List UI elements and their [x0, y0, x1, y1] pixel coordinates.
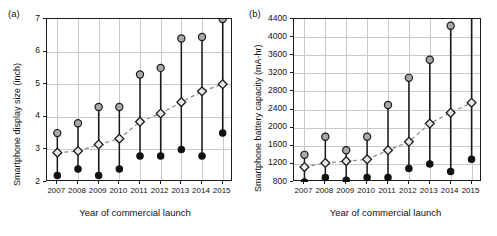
marker-average — [94, 140, 103, 149]
y-tick-mark — [43, 83, 46, 84]
marker-average — [342, 157, 351, 166]
marker-minimum — [322, 174, 328, 180]
y-tick-mark — [290, 109, 293, 110]
marker-minimum — [343, 177, 349, 183]
x-tick-mark — [201, 181, 202, 184]
x-tick-label: 2015 — [209, 186, 235, 195]
y-tick-label: 4 — [6, 110, 40, 120]
x-tick-mark — [429, 181, 430, 184]
marker-average — [384, 146, 393, 155]
marker-average — [218, 80, 227, 89]
x-tick-mark — [118, 181, 119, 184]
marker-maximum — [322, 133, 329, 140]
x-tick-mark — [139, 181, 140, 184]
x-tick-mark — [366, 181, 367, 184]
marker-minimum — [137, 153, 143, 159]
marker-minimum — [219, 130, 225, 136]
marker-maximum — [405, 74, 412, 81]
marker-minimum — [301, 179, 307, 185]
x-tick-mark — [450, 181, 451, 184]
y-tick-mark — [290, 72, 293, 73]
marker-average — [74, 147, 83, 156]
marker-maximum — [426, 56, 433, 63]
y-tick-label: 3 — [6, 143, 40, 153]
marker-maximum — [301, 151, 308, 158]
marker-minimum — [157, 153, 163, 159]
marker-average — [321, 159, 330, 168]
marker-minimum — [447, 168, 453, 174]
y-tick-mark — [290, 163, 293, 164]
y-tick-mark — [290, 54, 293, 55]
marker-maximum — [198, 33, 205, 40]
y-tick-mark — [43, 116, 46, 117]
x-tick-mark — [471, 181, 472, 184]
marker-maximum — [468, 6, 475, 13]
marker-minimum — [427, 161, 433, 167]
marker-maximum — [157, 64, 164, 71]
marker-minimum — [385, 174, 391, 180]
marker-average — [177, 98, 186, 107]
x-tick-mark — [56, 181, 57, 184]
marker-maximum — [364, 133, 371, 140]
y-tick-label: 2 — [6, 176, 40, 186]
marker-average — [446, 108, 455, 117]
y-tick-label: 6 — [6, 45, 40, 55]
data-overlay — [47, 19, 233, 182]
y-tick-mark — [43, 51, 46, 52]
y-tick-label: 3600 — [253, 49, 287, 59]
data-overlay — [294, 19, 482, 182]
marker-maximum — [384, 101, 391, 108]
y-tick-label: 3200 — [253, 67, 287, 77]
y-tick-label: 2800 — [253, 85, 287, 95]
marker-minimum — [116, 166, 122, 172]
panel-b: (b) Smartphone battery capacity (mA-hr) … — [248, 0, 497, 236]
marker-minimum — [54, 172, 60, 178]
x-tick-mark — [222, 181, 223, 184]
marker-average — [115, 134, 124, 143]
y-tick-label: 2000 — [253, 121, 287, 131]
panel-b-x-axis-title: Year of commercial launch — [278, 207, 493, 218]
y-tick-mark — [290, 145, 293, 146]
y-tick-label: 4000 — [253, 31, 287, 41]
marker-average — [300, 163, 309, 172]
x-tick-label: 2015 — [458, 186, 484, 195]
marker-maximum — [136, 71, 143, 78]
y-tick-mark — [290, 127, 293, 128]
y-tick-mark — [43, 18, 46, 19]
panel-a-plot-area — [46, 18, 232, 181]
y-tick-label: 1600 — [253, 139, 287, 149]
x-tick-mark — [408, 181, 409, 184]
marker-maximum — [219, 15, 226, 22]
x-tick-mark — [324, 181, 325, 184]
marker-minimum — [95, 172, 101, 178]
marker-minimum — [199, 153, 205, 159]
marker-average — [198, 87, 207, 96]
marker-minimum — [364, 174, 370, 180]
panel-b-plot-area — [293, 18, 481, 181]
x-tick-mark — [77, 181, 78, 184]
marker-maximum — [95, 103, 102, 110]
marker-minimum — [406, 165, 412, 171]
marker-maximum — [343, 147, 350, 154]
y-tick-label: 5 — [6, 78, 40, 88]
marker-average — [467, 98, 476, 107]
y-tick-label: 2400 — [253, 103, 287, 113]
marker-average — [363, 155, 372, 164]
marker-maximum — [447, 22, 454, 29]
x-tick-mark — [98, 181, 99, 184]
x-tick-mark — [387, 181, 388, 184]
marker-maximum — [178, 35, 185, 42]
figure-container: (a) Smartphone display size (inch) Year … — [0, 0, 497, 236]
marker-average — [425, 119, 434, 128]
y-tick-label: 4400 — [253, 13, 287, 23]
y-tick-mark — [43, 181, 46, 182]
y-tick-label: 800 — [253, 176, 287, 186]
marker-average — [156, 109, 165, 118]
y-tick-mark — [290, 181, 293, 182]
y-tick-mark — [43, 148, 46, 149]
marker-minimum — [75, 166, 81, 172]
marker-minimum — [178, 146, 184, 152]
panel-a-x-axis-title: Year of commercial launch — [30, 207, 240, 218]
marker-maximum — [116, 103, 123, 110]
x-tick-mark — [160, 181, 161, 184]
